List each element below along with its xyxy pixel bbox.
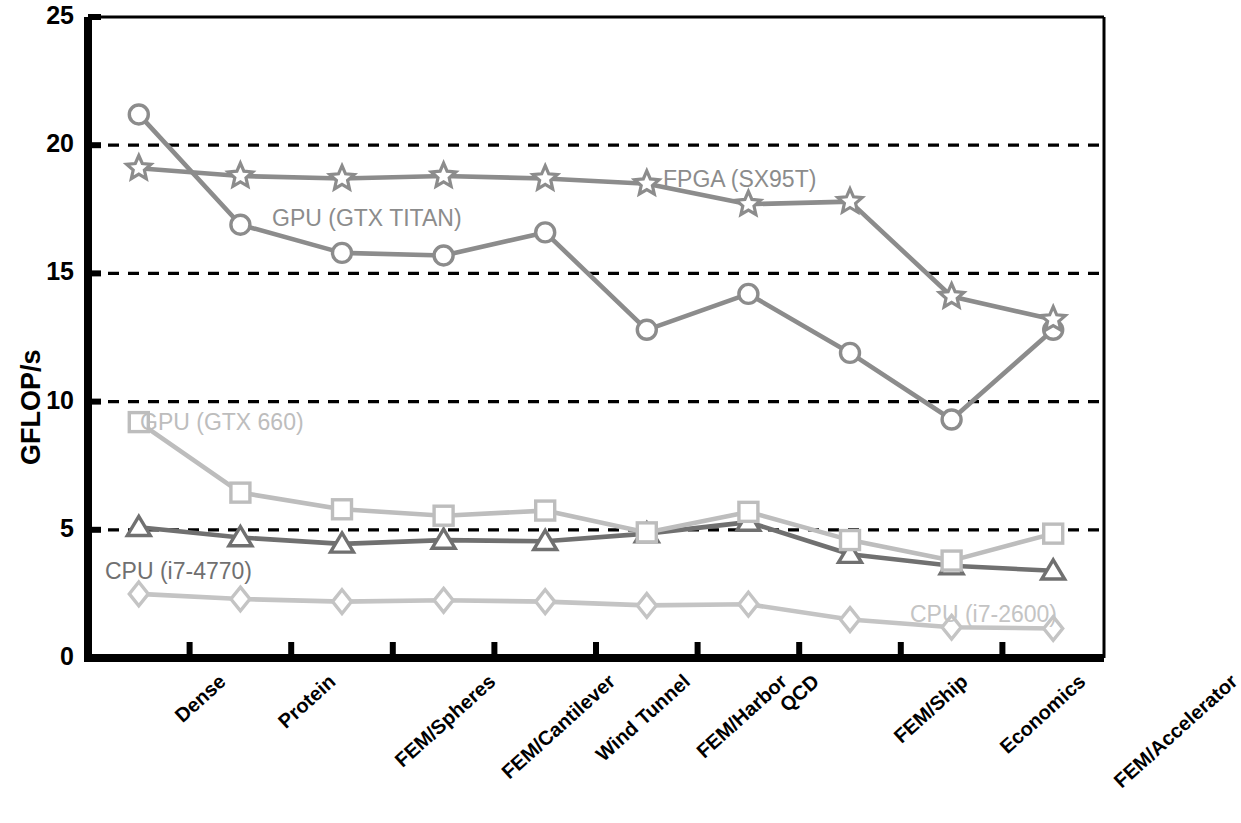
marker-circle bbox=[637, 320, 656, 339]
marker-diamond bbox=[841, 608, 860, 632]
marker-star bbox=[228, 163, 252, 186]
marker-star bbox=[533, 166, 557, 189]
marker-diamond bbox=[129, 582, 148, 606]
series-label-cpu-i7-4770-: CPU (i7-4770) bbox=[105, 558, 252, 585]
marker-star bbox=[127, 156, 151, 179]
marker-square bbox=[841, 531, 860, 550]
marker-circle bbox=[231, 215, 250, 234]
marker-circle bbox=[129, 105, 148, 124]
series-label-gpu-gtx-titan-: GPU (GTX TITAN) bbox=[272, 205, 462, 232]
series-label-cpu-i7-2600-: CPU (i7-2600) bbox=[910, 601, 1057, 628]
marker-square bbox=[536, 501, 555, 520]
y-tick-label-5: 5 bbox=[12, 514, 74, 543]
y-tick-label-15: 15 bbox=[12, 257, 74, 286]
marker-diamond bbox=[434, 588, 453, 612]
series-label-fpga-sx95t-: FPGA (SX95T) bbox=[663, 166, 816, 193]
marker-square bbox=[434, 506, 453, 525]
marker-square bbox=[1044, 524, 1063, 543]
marker-star bbox=[431, 163, 455, 186]
y-tick-label-0: 0 bbox=[12, 642, 74, 671]
marker-square bbox=[637, 523, 656, 542]
marker-diamond bbox=[536, 590, 555, 614]
marker-diamond bbox=[333, 590, 352, 614]
marker-circle bbox=[536, 223, 555, 242]
marker-square bbox=[231, 483, 250, 502]
marker-circle bbox=[333, 243, 352, 262]
y-tick-label-20: 20 bbox=[12, 129, 74, 158]
marker-circle bbox=[739, 284, 758, 303]
marker-square bbox=[942, 551, 961, 570]
marker-diamond bbox=[637, 594, 656, 618]
marker-square bbox=[333, 500, 352, 519]
marker-star bbox=[330, 166, 354, 189]
marker-circle bbox=[434, 246, 453, 265]
y-tick-label-25: 25 bbox=[12, 1, 74, 30]
marker-diamond bbox=[739, 592, 758, 616]
marker-circle bbox=[841, 343, 860, 362]
series-label-gpu-gtx-660-: GPU (GTX 660) bbox=[140, 409, 304, 436]
x-tick-label-fem-accelerator: FEM/Accelerator bbox=[1110, 670, 1241, 793]
y-tick-label-10: 10 bbox=[12, 386, 74, 415]
series-line-fpga-sx95t- bbox=[139, 168, 1053, 319]
marker-star bbox=[736, 191, 760, 214]
marker-square bbox=[739, 502, 758, 521]
marker-star bbox=[635, 171, 659, 194]
marker-circle bbox=[942, 410, 961, 429]
series-line-gpu-gtx-titan- bbox=[139, 114, 1053, 419]
marker-diamond bbox=[231, 587, 250, 611]
